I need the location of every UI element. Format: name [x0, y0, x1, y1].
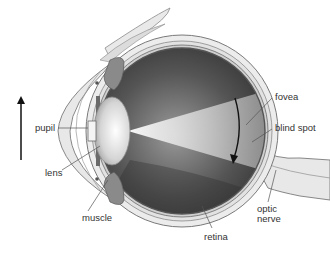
eye-diagram: pupil lens muscle fovea blind spot optic… [0, 0, 330, 255]
label-fovea: fovea [275, 91, 299, 102]
label-pupil: pupil [35, 122, 55, 133]
label-lens: lens [45, 167, 63, 178]
label-muscle: muscle [82, 212, 112, 223]
object-arrow [17, 96, 25, 160]
lens [94, 97, 130, 165]
label-retina: retina [204, 231, 228, 242]
pupil [88, 121, 96, 141]
label-blind-spot: blind spot [275, 122, 316, 133]
label-optic-nerve-line2: nerve [257, 213, 281, 224]
